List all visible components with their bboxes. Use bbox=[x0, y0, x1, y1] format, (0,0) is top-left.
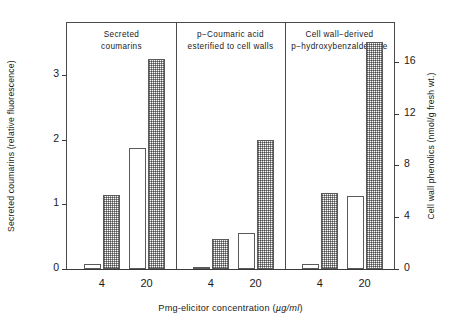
panel-2: p−Coumaric acidesterified to cell walls bbox=[176, 23, 285, 269]
y-axis-left-tick-label: 2 bbox=[33, 132, 59, 144]
plot-area: Secretedcoumarinsp−Coumaric acidesterifi… bbox=[66, 22, 395, 270]
bar-open-20 bbox=[347, 196, 364, 269]
y-axis-right-tick bbox=[394, 114, 399, 115]
y-axis-right-tick-label: 12 bbox=[404, 106, 430, 118]
panel-1: Secretedcoumarins bbox=[67, 23, 176, 269]
y-axis-left-tick-label: 0 bbox=[33, 261, 59, 273]
bar-shaded-4 bbox=[321, 193, 338, 269]
x-axis-tick-label: 4 bbox=[305, 277, 335, 289]
panel-3: Cell wall−derivedp−hydroxybenzaldehyde bbox=[285, 23, 394, 269]
bar-group bbox=[67, 23, 176, 269]
x-axis-title-unit: µg/ml bbox=[276, 303, 300, 313]
figure-container: Secreted coumarins (relative fluorescenc… bbox=[0, 0, 460, 331]
x-axis-title-prefix: Pmg-elicitor concentration ( bbox=[158, 303, 275, 313]
y-axis-right-tick-label: 16 bbox=[404, 54, 430, 66]
x-axis-tick-label: 20 bbox=[132, 277, 162, 289]
bar-open-4 bbox=[302, 264, 319, 269]
bar-shaded-4 bbox=[212, 239, 229, 269]
x-axis-tick-label: 4 bbox=[87, 277, 117, 289]
y-axis-right-tick-label: 8 bbox=[404, 157, 430, 169]
bar-shaded-20 bbox=[366, 42, 383, 269]
x-axis-title-suffix: ) bbox=[299, 303, 302, 313]
y-axis-left-tick bbox=[62, 269, 67, 270]
y-axis-right-tick bbox=[394, 165, 399, 166]
y-axis-right-tick bbox=[394, 269, 399, 270]
x-axis-title: Pmg-elicitor concentration (µg/ml) bbox=[66, 303, 395, 313]
bar-group bbox=[285, 23, 394, 269]
bar-open-4 bbox=[84, 264, 101, 269]
y-axis-right-tick bbox=[394, 62, 399, 63]
x-axis-tick-label: 20 bbox=[350, 277, 380, 289]
y-axis-left-title: Secreted coumarins (relative fluorescenc… bbox=[6, 22, 16, 270]
bar-shaded-4 bbox=[103, 195, 120, 269]
bar-shaded-20 bbox=[148, 59, 165, 269]
y-axis-right-tick-label: 4 bbox=[404, 209, 430, 221]
bar-open-20 bbox=[129, 148, 146, 269]
bar-open-4 bbox=[193, 267, 210, 269]
y-axis-left-tick-label: 1 bbox=[33, 196, 59, 208]
y-axis-left-tick-label: 3 bbox=[33, 67, 59, 79]
x-axis-tick-label: 20 bbox=[241, 277, 271, 289]
y-axis-right-tick-label: 0 bbox=[404, 261, 430, 273]
bar-group bbox=[176, 23, 285, 269]
bar-shaded-20 bbox=[257, 140, 274, 269]
x-axis-tick-label: 4 bbox=[196, 277, 226, 289]
bar-open-20 bbox=[238, 233, 255, 269]
y-axis-right-tick bbox=[394, 217, 399, 218]
